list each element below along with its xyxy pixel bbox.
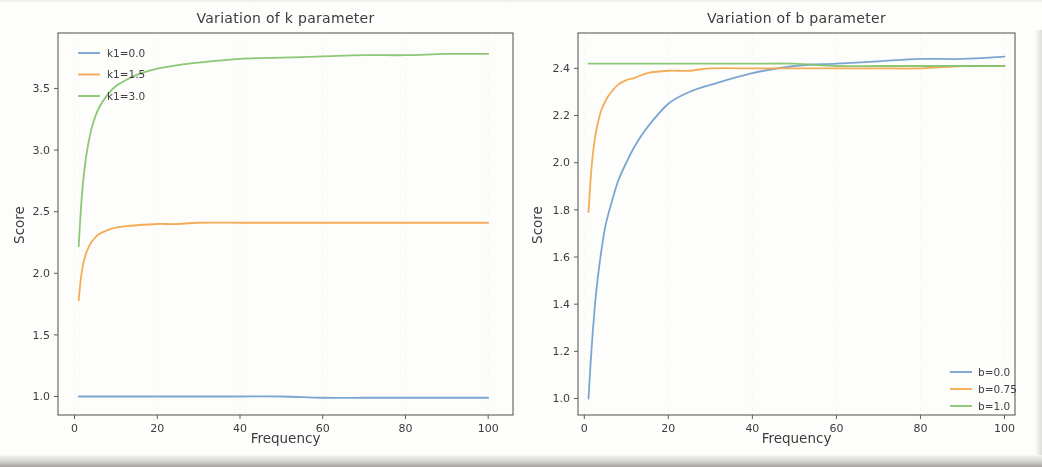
figure: Variation of k parameter 0204060801001.0…	[0, 0, 1042, 467]
y-tick-label: 1.8	[553, 204, 571, 217]
figure-canvas: Variation of k parameter 0204060801001.0…	[0, 0, 1042, 467]
legend-label: b=0.75	[978, 383, 1017, 395]
legend-label: b=1.0	[978, 400, 1010, 412]
y-tick-label: 2.0	[33, 267, 51, 280]
chart-b-parameter: Variation of b parameter 0204060801001.0…	[521, 0, 1042, 467]
y-tick-label: 1.4	[553, 298, 571, 311]
y-tick-label: 1.5	[33, 329, 51, 342]
photo-edge-shade-bottom	[0, 454, 1042, 467]
y-tick-label: 3.0	[33, 144, 51, 157]
y-tick-label: 2.5	[33, 205, 51, 218]
y-tick-label: 1.0	[553, 392, 571, 405]
legend-label: k1=1.5	[107, 68, 145, 80]
series-line-k1=3.0	[79, 54, 489, 246]
y-tick-label: 2.2	[553, 109, 571, 122]
k-parameter-plot: 0204060801001.01.52.02.53.03.5k1=0.0k1=1…	[0, 0, 521, 467]
legend-label: k1=0.0	[107, 47, 145, 59]
y-tick-label: 3.5	[33, 82, 51, 95]
x-axis-label: Frequency	[58, 430, 513, 446]
y-tick-label: 2.0	[553, 156, 571, 169]
photo-edge-shade-top	[0, 0, 1042, 3]
y-axis-label: Score	[11, 195, 27, 255]
y-axis-label: Score	[529, 195, 545, 255]
y-tick-label: 1.2	[553, 345, 571, 358]
b-parameter-plot: 0204060801001.01.21.41.61.82.02.22.4b=0.…	[521, 0, 1042, 467]
legend-label: b=0.0	[978, 366, 1010, 378]
legend-label: k1=3.0	[107, 90, 145, 102]
y-tick-label: 1.6	[553, 251, 571, 264]
y-tick-label: 2.4	[553, 62, 571, 75]
y-tick-label: 1.0	[33, 390, 51, 403]
series-line-k1=0.0	[79, 396, 489, 397]
series-line-k1=1.5	[79, 223, 489, 301]
series-line-b=0.0	[589, 57, 1005, 399]
x-axis-label: Frequency	[578, 430, 1015, 446]
axes-frame	[578, 33, 1015, 415]
photo-edge-shade-right	[1035, 30, 1042, 455]
chart-k-parameter: Variation of k parameter 0204060801001.0…	[0, 0, 521, 467]
series-line-b=0.75	[589, 66, 1005, 212]
